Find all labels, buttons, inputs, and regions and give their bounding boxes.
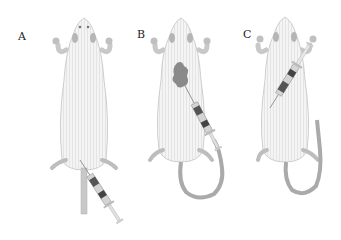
mouse-c: [257, 17, 321, 193]
mouse-b: [150, 18, 222, 198]
paw-icon: [204, 38, 211, 45]
paw-icon: [151, 38, 158, 45]
paw-icon: [310, 36, 317, 43]
figure-canvas: [0, 0, 341, 240]
mouse-a: [52, 18, 116, 214]
paw-icon: [106, 38, 113, 45]
tail: [81, 168, 87, 214]
paw-icon: [257, 36, 264, 43]
paw-icon: [53, 38, 60, 45]
